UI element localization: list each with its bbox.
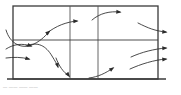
arrow-curve-arrow-up-bottom-center	[89, 68, 113, 78]
arrowhead-arrow-top-mid-left	[73, 19, 78, 23]
arrowhead-arrow-out-mid-upper	[162, 46, 167, 50]
grid-layer	[7, 6, 166, 79]
arrow-curve-arrow-recirc-loop	[26, 44, 58, 67]
figure-caption: — —— —— ——	[3, 84, 38, 89]
arrowhead-arrow-up-bottom-center	[109, 66, 116, 72]
arrowhead-arrow-in-mid-lower	[25, 56, 31, 61]
arrow-curve-arrow-out-top-right	[138, 23, 166, 32]
arrow-layer	[6, 10, 168, 79]
arrowhead-arrow-down-to-floor	[65, 72, 71, 79]
arrowhead-arrow-out-mid-lower	[162, 57, 168, 61]
arrow-curve-arrow-out-mid-lower	[130, 59, 166, 69]
arrow-curve-arrow-top-mid-right	[92, 12, 120, 20]
flow-diagram-figure: — —— —— ——	[0, 0, 181, 95]
arrow-curve-arrow-out-mid-upper	[131, 48, 166, 57]
flow-diagram-canvas	[0, 0, 181, 95]
arrowhead-arrow-out-top-right	[162, 30, 168, 35]
grid-outer-boundary	[13, 6, 158, 79]
arrowhead-arrow-top-mid-right	[116, 10, 122, 15]
arrow-curve-arrow-top-mid-left	[47, 21, 77, 33]
